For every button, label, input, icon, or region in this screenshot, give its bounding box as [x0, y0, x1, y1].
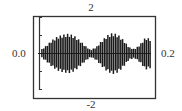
y-min-label: -2: [86, 99, 95, 110]
y-max-label: 2: [88, 2, 94, 13]
plot-area: [0, 0, 182, 111]
x-min-label: 0.0: [12, 48, 26, 59]
x-max-label: 0.2: [161, 48, 175, 59]
